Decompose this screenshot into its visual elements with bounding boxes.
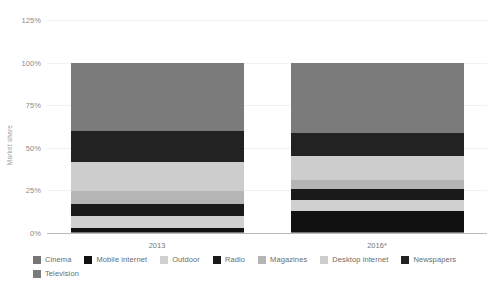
legend-swatch-icon [258,256,266,264]
y-axis-tick-label: 100% [21,58,41,67]
legend-swatch-icon [33,256,41,264]
legend-item-label: Newspapers [413,255,456,264]
legend-item[interactable]: Television [33,269,79,278]
legend-item-label: Outdoor [172,255,200,264]
legend-swatch-icon [160,256,168,264]
bar-segment[interactable] [291,232,464,233]
legend-item-label: Magazines [270,255,307,264]
legend-item[interactable]: Mobile internet [84,255,147,264]
bar-segment[interactable] [71,131,244,162]
stacked-bar[interactable] [71,63,244,233]
legend-item[interactable]: Cinema [33,255,71,264]
legend-item-label: Television [45,269,79,278]
plot-area: 0%25%50%75%100%125%20132016* [47,20,487,233]
bar-group: 2013 [47,20,267,233]
y-axis-tick-label: 125% [21,16,41,25]
bar-segment[interactable] [71,162,244,191]
chart-legend: CinemaMobile internetOutdoorRadioMagazin… [33,255,485,278]
bar-segment[interactable] [71,232,244,233]
bar-segment[interactable] [71,216,244,227]
y-axis-tick-label: 0% [30,229,41,238]
stacked-bar-chart: Market share 0%25%50%75%100%125%20132016… [0,0,493,289]
stacked-bar[interactable] [291,63,464,233]
legend-item[interactable]: Desktop internet [320,255,388,264]
bar-segment[interactable] [291,63,464,133]
legend-swatch-icon [320,256,328,264]
legend-item[interactable]: Magazines [258,255,307,264]
bar-segment[interactable] [291,200,464,211]
legend-item-label: Desktop internet [332,255,388,264]
legend-item-label: Mobile internet [96,255,147,264]
bar-segment[interactable] [71,63,244,131]
bar-segment[interactable] [291,189,464,199]
bar-segment[interactable] [291,180,464,189]
bar-segment[interactable] [291,133,464,157]
legend-item[interactable]: Radio [213,255,245,264]
bar-group: 2016* [267,20,487,233]
legend-swatch-icon [213,256,221,264]
bar-segment[interactable] [71,191,244,204]
legend-swatch-icon [33,270,41,278]
x-axis-tick-label: 2013 [149,241,166,250]
x-axis-line [47,233,487,234]
legend-swatch-icon [401,256,409,264]
y-axis-tick-label: 25% [26,186,41,195]
legend-item-label: Cinema [45,255,71,264]
legend-swatch-icon [84,256,92,264]
legend-item-label: Radio [225,255,245,264]
y-axis-tick-label: 75% [26,101,41,110]
y-axis-tick-label: 50% [26,143,41,152]
x-axis-tick-label: 2016* [367,241,387,250]
legend-item[interactable]: Newspapers [401,255,456,264]
y-axis-title: Market share [6,124,13,164]
bar-segment[interactable] [71,204,244,216]
bar-segment[interactable] [291,156,464,180]
bar-segment[interactable] [291,211,464,232]
legend-item[interactable]: Outdoor [160,255,200,264]
